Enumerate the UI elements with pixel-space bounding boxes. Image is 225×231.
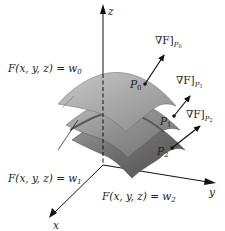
gradient-label-p0: ∇F]P0 [155, 34, 182, 49]
x-axis-arrowhead-icon [49, 208, 57, 218]
level-surfaces-diagram: z y x F(x, y, z) = w0 F(x, y, z) = w1 F(… [0, 0, 225, 231]
gradient-arrow-p0 [145, 55, 164, 84]
surface-w1-label: F(x, y, z) = w1 [7, 172, 82, 186]
surface-w2-label: F(x, y, z) = w2 [101, 190, 176, 204]
y-axis-arrowhead-icon [204, 178, 216, 185]
surface-w0-label: F(x, y, z) = w0 [7, 62, 82, 76]
point-p1-label: P1 [159, 115, 172, 129]
y-axis-label: y [208, 186, 216, 198]
x-axis-label: x [53, 219, 59, 231]
gradient-label-p1: ∇F]P1 [176, 74, 203, 89]
z-axis-arrowhead-icon [100, 4, 106, 14]
y-axis [103, 165, 208, 182]
gradient-arrow-p2 [172, 126, 200, 148]
z-axis-label: z [107, 5, 114, 17]
gradient-label-p2: ∇F]P2 [186, 108, 213, 123]
